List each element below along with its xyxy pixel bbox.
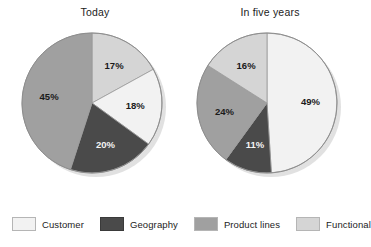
pie-slice-label: 49%	[301, 96, 321, 107]
legend-item-functional[interactable]: Functional	[296, 217, 371, 231]
pie-svg-in-five-years: 49%11%24%16%	[185, 23, 355, 183]
pie-slice-label: 11%	[246, 139, 265, 150]
pie-title-today: Today	[10, 6, 180, 18]
legend-swatch-icon	[12, 217, 36, 231]
pie-slice-label: 24%	[215, 106, 235, 117]
pie-slice-label: 45%	[40, 91, 60, 102]
legend-label: Geography	[130, 219, 178, 230]
pie-slice-label: 16%	[237, 60, 257, 71]
legend-item-product-lines[interactable]: Product lines	[194, 217, 280, 231]
legend-swatch-icon	[194, 217, 218, 231]
charts-row: Today 17%18%20%45% In five years 49%11%2…	[0, 0, 358, 200]
pie-slice-label: 17%	[105, 60, 125, 71]
pie-chart-in-five-years: In five years 49%11%24%16%	[185, 0, 355, 200]
pie-slice-label: 20%	[96, 139, 116, 150]
pie-title-in-five-years: In five years	[185, 6, 355, 18]
legend-item-customer[interactable]: Customer	[12, 217, 84, 231]
legend-item-geography[interactable]: Geography	[100, 217, 178, 231]
legend-swatch-icon	[100, 217, 124, 231]
legend-label: Functional	[326, 219, 371, 230]
chart-legend: CustomerGeographyProduct linesFunctional	[0, 212, 358, 236]
pie-slice-label: 18%	[126, 100, 146, 111]
pie-svg-today: 17%18%20%45%	[10, 23, 180, 183]
pie-chart-today: Today 17%18%20%45%	[10, 0, 180, 200]
legend-label: Product lines	[224, 219, 280, 230]
legend-label: Customer	[42, 219, 84, 230]
legend-swatch-icon	[296, 217, 320, 231]
